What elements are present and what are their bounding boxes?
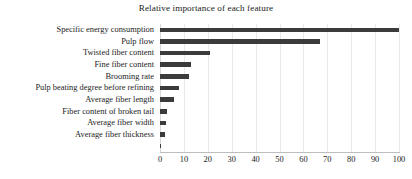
bar [160, 144, 161, 149]
bar-row [160, 97, 399, 102]
x-tick-label: 20 [204, 155, 212, 164]
bar [160, 109, 167, 114]
relative-importance-bar-chart: Relative importance of each feature Spec… [0, 0, 412, 179]
x-tick-label: 0 [158, 155, 162, 164]
category-label: Fine fiber content [0, 60, 157, 69]
x-tick-label: 60 [299, 155, 307, 164]
bar [160, 121, 166, 126]
category-label: Twisted fiber content [0, 48, 157, 57]
x-tick-label: 50 [275, 155, 283, 164]
x-tick-label: 80 [347, 155, 355, 164]
category-label: Pulp beating degree before refining [0, 83, 157, 92]
x-tick-label: 40 [251, 155, 259, 164]
category-label: Fiber content of broken tail [0, 107, 157, 116]
category-label: Brooming rate [0, 72, 157, 81]
x-tick-label: 100 [393, 155, 406, 164]
x-axis-line [160, 152, 400, 153]
bar [160, 28, 399, 33]
bar-row [160, 144, 399, 149]
bar-row [160, 51, 399, 56]
bar-row [160, 62, 399, 67]
bar-row [160, 121, 399, 126]
bar-row [160, 74, 399, 79]
gridline-100 [399, 24, 400, 152]
bar-row [160, 86, 399, 91]
bar-row [160, 132, 399, 137]
plot-area [160, 24, 399, 152]
x-tick-label: 10 [180, 155, 188, 164]
category-axis-labels: Specific energy consumptionPulp flowTwis… [0, 24, 157, 152]
bar [160, 74, 189, 79]
bar-row [160, 109, 399, 114]
category-label: Average fiber thickness [0, 130, 157, 139]
x-tick-label: 70 [323, 155, 331, 164]
bar [160, 132, 165, 137]
bar-row [160, 39, 399, 44]
category-label: Specific energy consumption [0, 25, 157, 34]
bar [160, 51, 210, 56]
bar [160, 86, 179, 91]
bars-layer [160, 24, 399, 152]
bar-row [160, 28, 399, 33]
x-axis-tick-labels: 0102030405060708090100 [0, 155, 412, 169]
category-label: Average fiber length [0, 95, 157, 104]
chart-title: Relative importance of each feature [0, 3, 412, 13]
category-label: Pulp flow [0, 37, 157, 46]
bar [160, 62, 191, 67]
bar [160, 39, 320, 44]
x-tick-label: 90 [371, 155, 379, 164]
bar [160, 97, 174, 102]
x-tick-label: 30 [228, 155, 236, 164]
category-label: Average fiber width [0, 118, 157, 127]
